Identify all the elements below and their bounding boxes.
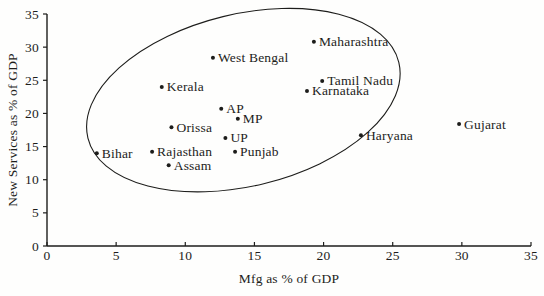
data-point-rajasthan	[150, 150, 154, 154]
data-point-label: Maharashtra	[319, 34, 389, 49]
y-tick-label: 30	[25, 40, 39, 55]
scatter-chart-figure: 0510152025303505101520253035MaharashtraW…	[0, 0, 544, 296]
y-tick-label: 20	[25, 106, 39, 121]
x-tick-label: 35	[524, 248, 538, 263]
x-tick-label: 20	[317, 248, 331, 263]
data-point-label: Bihar	[102, 146, 133, 161]
y-tick-label: 10	[25, 172, 39, 187]
y-tick-label: 25	[25, 73, 39, 88]
data-point-mp	[236, 117, 240, 121]
data-point-gujarat	[457, 122, 461, 126]
data-point-label: AP	[226, 101, 244, 116]
data-point-label: West Bengal	[218, 50, 289, 65]
data-point-label: Assam	[174, 158, 212, 173]
x-tick-label: 25	[386, 248, 400, 263]
x-tick-label: 0	[44, 248, 51, 263]
data-point-tamil-nadu	[320, 79, 324, 83]
x-tick-label: 10	[178, 248, 192, 263]
data-point-label: UP	[230, 130, 248, 145]
data-point-ap	[219, 107, 223, 111]
data-point-maharashtra	[312, 40, 316, 44]
data-point-punjab	[233, 150, 237, 154]
data-point-label: Kerala	[167, 79, 204, 94]
chart-canvas: 0510152025303505101520253035MaharashtraW…	[0, 0, 544, 296]
data-point-label: Karnataka	[312, 83, 369, 98]
x-tick-label: 30	[455, 248, 469, 263]
data-point-label: Orissa	[176, 120, 212, 135]
data-point-up	[223, 136, 227, 140]
y-tick-label: 35	[25, 7, 39, 22]
data-point-west-bengal	[211, 56, 215, 60]
data-point-label: Gujarat	[464, 117, 506, 132]
data-point-orissa	[169, 125, 173, 129]
data-point-karnataka	[305, 89, 309, 93]
data-point-label: Punjab	[240, 144, 279, 159]
x-tick-label: 15	[247, 248, 261, 263]
data-point-label: MP	[243, 111, 263, 126]
data-point-label: Haryana	[366, 128, 413, 143]
data-point-kerala	[160, 85, 164, 89]
data-point-assam	[167, 163, 171, 167]
y-tick-label: 5	[32, 205, 39, 220]
data-point-bihar	[95, 151, 99, 155]
x-axis-title: Mfg as % of GDP	[239, 271, 340, 286]
y-tick-label: 15	[25, 139, 39, 154]
x-tick-label: 5	[113, 248, 120, 263]
data-point-haryana	[359, 133, 363, 137]
y-tick-label: 0	[32, 239, 39, 254]
y-axis-title: New Services as % of GDP	[5, 53, 20, 207]
